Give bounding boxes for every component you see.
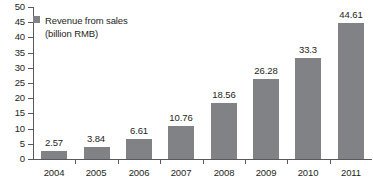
- x-axis-tick: [160, 159, 161, 164]
- chart-legend: Revenue from sales (billion RMB): [33, 14, 128, 40]
- y-axis-tick-label: 50: [15, 2, 25, 12]
- y-axis-tick-label: 40: [15, 32, 25, 42]
- y-axis-tick: [28, 129, 33, 130]
- x-axis-tick: [245, 159, 246, 164]
- y-axis-tick-label: 45: [15, 17, 25, 27]
- bar-value-label: 3.84: [75, 134, 117, 144]
- bar: [126, 139, 152, 159]
- legend-label: Revenue from sales (billion RMB): [45, 14, 128, 40]
- x-axis-tick: [287, 159, 288, 164]
- bar-value-label: 33.3: [287, 45, 329, 55]
- x-axis-tick: [75, 159, 76, 164]
- bar-value-label: 2.57: [33, 138, 75, 148]
- x-axis-category-label: 2011: [330, 167, 372, 178]
- y-axis-tick-label: 5: [20, 139, 25, 149]
- y-axis-tick-label: 20: [15, 93, 25, 103]
- y-axis-tick-label: 35: [15, 48, 25, 58]
- x-axis-tick: [330, 159, 331, 164]
- bar: [84, 147, 110, 159]
- y-axis-tick: [28, 83, 33, 84]
- y-axis-tick-label: 0: [20, 154, 25, 164]
- bar: [211, 103, 237, 159]
- y-axis-tick-label: 10: [15, 124, 25, 134]
- x-axis-category-label: 2005: [75, 167, 117, 178]
- y-axis-tick-label: 15: [15, 108, 25, 118]
- legend-swatch-icon: [33, 16, 40, 23]
- x-axis-category-label: 2009: [245, 167, 287, 178]
- legend-label-line1: Revenue from sales: [45, 14, 128, 27]
- y-axis-tick: [28, 7, 33, 8]
- bar-value-label: 6.61: [118, 126, 160, 136]
- x-axis-category-label: 2004: [33, 167, 75, 178]
- y-axis-tick: [28, 68, 33, 69]
- y-axis-tick-label: 30: [15, 63, 25, 73]
- bar: [253, 79, 279, 159]
- bar-value-label: 10.76: [160, 113, 202, 123]
- bar: [338, 23, 364, 159]
- y-axis-tick-label: 25: [15, 78, 25, 88]
- y-axis-tick: [28, 53, 33, 54]
- x-axis-category-label: 2007: [160, 167, 202, 178]
- x-axis-tick: [203, 159, 204, 164]
- y-axis-tick: [28, 98, 33, 99]
- y-axis-tick: [28, 159, 33, 160]
- bar: [168, 126, 194, 159]
- x-axis-category-label: 2006: [118, 167, 160, 178]
- y-axis-tick: [28, 113, 33, 114]
- bar-value-label: 44.61: [330, 10, 372, 20]
- bar-chart: 05101520253035404550 2.573.846.6110.7618…: [0, 0, 373, 182]
- x-axis-category-label: 2010: [287, 167, 329, 178]
- legend-label-line2: (billion RMB): [45, 27, 128, 40]
- x-axis-category-label: 2008: [203, 167, 245, 178]
- bar-value-label: 26.28: [245, 66, 287, 76]
- x-axis-tick: [118, 159, 119, 164]
- bar-value-label: 18.56: [203, 90, 245, 100]
- bar: [295, 58, 321, 159]
- bar: [41, 151, 67, 159]
